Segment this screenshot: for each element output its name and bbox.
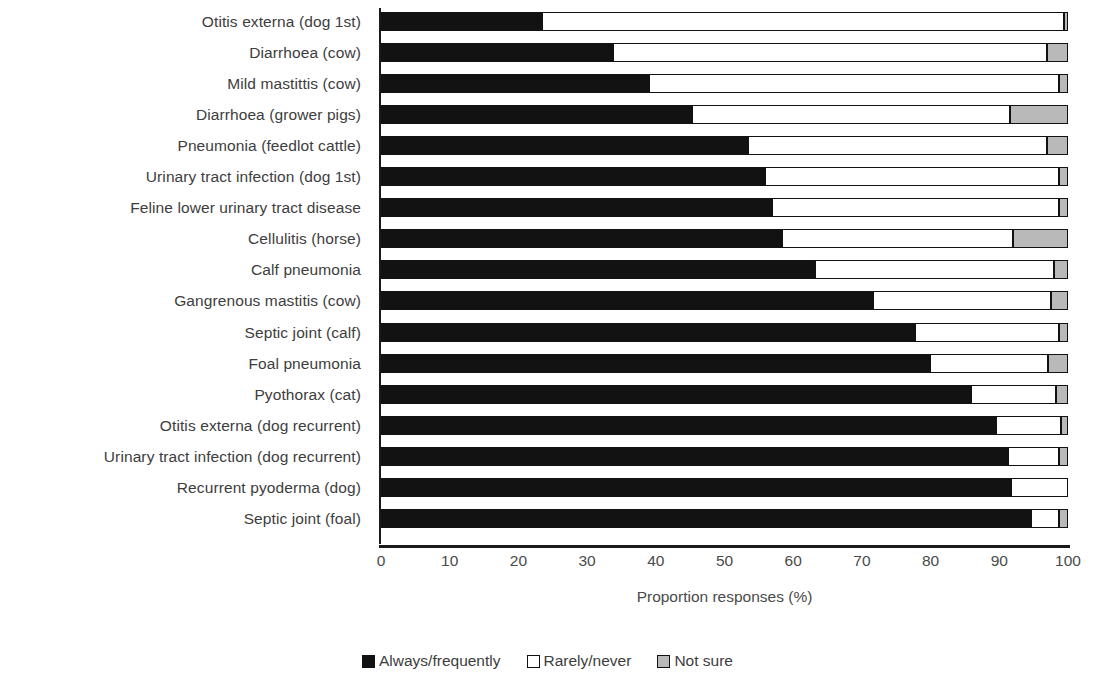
legend-item-label: Rarely/never (544, 652, 632, 670)
bar-segment-not-sure (1059, 323, 1068, 342)
x-axis-tick: 30 (557, 552, 617, 570)
legend-item-label: Always/frequently (379, 652, 500, 670)
bar-segment-always-frequently (381, 323, 915, 342)
bar-segment-not-sure (1010, 105, 1068, 124)
y-axis-label: Cellulitis (horse) (248, 229, 361, 249)
bar-row (381, 291, 1068, 310)
y-axis-label: Urinary tract infection (dog recurrent) (104, 447, 361, 467)
y-axis-label: Otitis externa (dog recurrent) (160, 416, 361, 436)
bar-segment-rarely-never (748, 136, 1048, 155)
x-axis-tick: 90 (969, 552, 1029, 570)
bar-segment-always-frequently (381, 354, 930, 373)
x-axis-tick: 40 (626, 552, 686, 570)
bar-segment-rarely-never (765, 167, 1059, 186)
bar-segment-rarely-never (971, 385, 1056, 404)
y-axis-label: Otitis externa (dog 1st) (202, 12, 361, 32)
y-axis-label: Pyothorax (cat) (254, 385, 361, 405)
bar-row (381, 323, 1068, 342)
bar-segment-not-sure (1059, 198, 1068, 217)
bar-segment-rarely-never (873, 291, 1051, 310)
bar-segment-not-sure (1047, 136, 1068, 155)
x-axis-line (379, 545, 1070, 548)
white-square-swatch (527, 655, 540, 668)
bar-segment-always-frequently (381, 509, 1031, 528)
legend-item: Not sure (657, 652, 733, 670)
bar-segment-rarely-never (1011, 478, 1068, 497)
x-axis-tick: 20 (488, 552, 548, 570)
bar-row (381, 447, 1068, 466)
x-axis-tick-labels: 0102030405060708090100 (381, 552, 1068, 578)
x-axis-tick: 80 (901, 552, 961, 570)
bar-row (381, 12, 1068, 31)
y-axis-label: Urinary tract infection (dog 1st) (146, 167, 361, 187)
y-axis-label: Septic joint (calf) (245, 323, 361, 343)
bar-segment-not-sure (1048, 354, 1068, 373)
bar-segment-rarely-never (782, 229, 1013, 248)
bar-row (381, 74, 1068, 93)
y-axis-label: Calf pneumonia (251, 260, 361, 280)
y-axis-label: Septic joint (foal) (244, 509, 361, 529)
bar-row (381, 385, 1068, 404)
bar-segment-always-frequently (381, 385, 971, 404)
bar-segment-always-frequently (381, 12, 542, 31)
bar-row (381, 198, 1068, 217)
bar-segment-rarely-never (996, 416, 1061, 435)
bar-segment-rarely-never (542, 12, 1063, 31)
bar-segment-always-frequently (381, 478, 1011, 497)
bar-segment-not-sure (1061, 416, 1068, 435)
bar-segment-always-frequently (381, 447, 1008, 466)
bar-segment-always-frequently (381, 43, 613, 62)
bar-row (381, 167, 1068, 186)
bar-row (381, 229, 1068, 248)
bar-segment-not-sure (1059, 167, 1068, 186)
bar-segment-not-sure (1054, 260, 1068, 279)
legend-item: Rarely/never (527, 652, 632, 670)
x-axis-title: Proportion responses (%) (381, 588, 1068, 606)
bar-row (381, 509, 1068, 528)
bar-segment-not-sure (1064, 12, 1068, 31)
bar-row (381, 105, 1068, 124)
y-axis-label: Gangrenous mastitis (cow) (174, 291, 361, 311)
legend-item: Always/frequently (362, 652, 500, 670)
bar-segment-always-frequently (381, 198, 772, 217)
y-axis-label: Diarrhoea (cow) (249, 43, 361, 63)
bar-segment-rarely-never (613, 43, 1047, 62)
legend-item-label: Not sure (674, 652, 733, 670)
x-axis-tick: 0 (351, 552, 411, 570)
black-square-swatch (362, 655, 375, 668)
bar-segment-rarely-never (930, 354, 1048, 373)
bar-row (381, 478, 1068, 497)
bar-segment-always-frequently (381, 416, 996, 435)
bar-row (381, 136, 1068, 155)
bar-segment-always-frequently (381, 136, 748, 155)
bar-segment-rarely-never (772, 198, 1059, 217)
x-axis-tick: 70 (832, 552, 892, 570)
x-axis-tick: 50 (695, 552, 755, 570)
bar-segment-not-sure (1059, 509, 1068, 528)
bar-segment-rarely-never (815, 260, 1054, 279)
bar-segment-not-sure (1051, 291, 1068, 310)
chart-legend: Always/frequentlyRarely/neverNot sure (0, 652, 1095, 670)
bar-segment-rarely-never (1008, 447, 1060, 466)
x-axis-tick: 100 (1038, 552, 1095, 570)
y-axis-category-labels: Otitis externa (dog 1st)Diarrhoea (cow)M… (0, 12, 371, 540)
x-axis-tick: 60 (763, 552, 823, 570)
y-axis-label: Foal pneumonia (248, 354, 361, 374)
bar-segment-rarely-never (649, 74, 1059, 93)
bar-segment-always-frequently (381, 229, 782, 248)
stacked-bar-chart: Otitis externa (dog 1st)Diarrhoea (cow)M… (0, 0, 1095, 683)
bar-segment-rarely-never (915, 323, 1059, 342)
plot-area (381, 12, 1068, 540)
bar-segment-not-sure (1056, 385, 1068, 404)
bar-segment-not-sure (1047, 43, 1068, 62)
bar-segment-not-sure (1059, 74, 1068, 93)
bar-row (381, 354, 1068, 373)
bar-segment-always-frequently (381, 291, 873, 310)
bar-row (381, 416, 1068, 435)
y-axis-label: Diarrhoea (grower pigs) (196, 105, 361, 125)
gray-square-swatch (657, 655, 670, 668)
bar-segment-rarely-never (692, 105, 1011, 124)
x-axis-tick: 10 (420, 552, 480, 570)
bar-segment-always-frequently (381, 74, 649, 93)
bar-segment-not-sure (1059, 447, 1068, 466)
